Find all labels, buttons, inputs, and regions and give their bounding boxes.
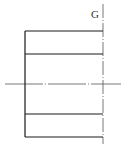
diagram-canvas: G [0, 0, 125, 152]
section-drawing: G [0, 0, 125, 152]
label-g: G [91, 8, 99, 20]
